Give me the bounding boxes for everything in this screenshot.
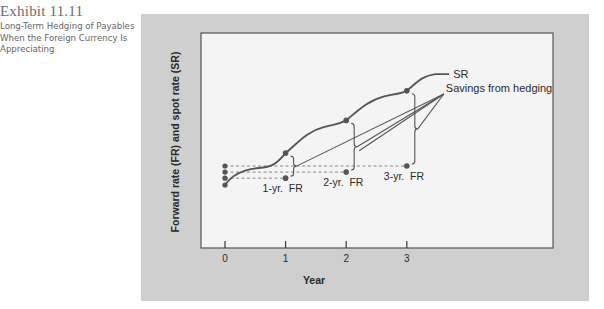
forward-rate-label: 3-yr. FR [384, 170, 425, 182]
x-axis-label: Year [303, 274, 325, 286]
forward-rate-year0-dot [222, 163, 227, 168]
forward-rate-year0-dot [222, 169, 227, 174]
forward-rate-dot [283, 175, 289, 181]
x-tick-label: 0 [222, 253, 228, 264]
savings-from-hedging-label: Savings from hedging [446, 82, 552, 94]
forward-rate-dot [343, 169, 349, 175]
y-axis-label: Forward rate (FR) and spot rate (SR) [169, 52, 181, 233]
x-tick-label: 3 [404, 253, 410, 264]
chart: Forward rate (FR) and spot rate (SR) Yea… [0, 0, 604, 309]
spot-rate-dot [283, 150, 289, 156]
spot-rate-dot [343, 118, 349, 124]
forward-rate-dot [404, 163, 410, 169]
spot-rate-year0-dot [222, 182, 227, 187]
forward-rate-label: 2-yr. FR [323, 176, 364, 188]
plot-area [201, 33, 553, 248]
x-tick-label: 1 [283, 253, 289, 264]
x-tick-label: 2 [343, 253, 349, 264]
spot-rate-dot [404, 88, 410, 94]
forward-rate-label: 1-yr. FR [263, 182, 304, 194]
sr-label: SR [453, 68, 468, 80]
forward-rate-year0-dot [222, 176, 227, 181]
